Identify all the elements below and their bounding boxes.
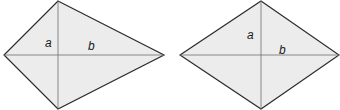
kite-figure: a b <box>4 1 164 109</box>
diagram-canvas: a b a b <box>0 0 340 110</box>
kite-label-a: a <box>45 36 52 50</box>
rhombus-label-b: b <box>279 43 286 57</box>
rhombus-figure: a b <box>180 1 339 109</box>
rhombus-label-a: a <box>247 28 254 42</box>
kite-label-b: b <box>88 39 95 53</box>
